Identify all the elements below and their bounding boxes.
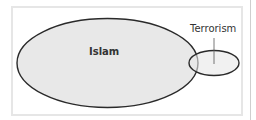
terrorism-label: Terrorism bbox=[190, 24, 236, 34]
islam-set-ellipse bbox=[17, 19, 198, 108]
islam-label: Islam bbox=[89, 47, 119, 57]
euler-diagram bbox=[0, 0, 256, 120]
